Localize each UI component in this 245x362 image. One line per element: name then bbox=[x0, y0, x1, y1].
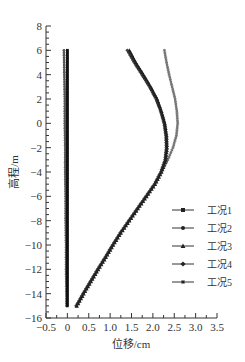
x-tick-label: 3.5 bbox=[210, 321, 224, 333]
legend-item-1: 工况1 bbox=[172, 205, 232, 216]
x-tick-label: 1.0 bbox=[103, 321, 117, 333]
y-tick-label: 4 bbox=[37, 69, 43, 81]
displacement-elevation-chart: 86420−2−4−6−8−10−12−14−16−0.500.51.01.52… bbox=[0, 0, 245, 362]
legend-item-4: 工况4 bbox=[172, 259, 232, 270]
y-tick-label: −12 bbox=[25, 263, 42, 275]
y-tick-label: −14 bbox=[25, 288, 43, 300]
y-tick-label: −2 bbox=[30, 142, 42, 154]
y-tick-label: 0 bbox=[37, 117, 43, 129]
legend-label: 工况4 bbox=[207, 259, 232, 270]
plot-area bbox=[63, 48, 180, 307]
x-tick-label: 2.5 bbox=[167, 321, 181, 333]
legend-item-2: 工况2 bbox=[172, 223, 232, 234]
series-3 bbox=[75, 48, 170, 307]
x-tick-label: 2.0 bbox=[146, 321, 160, 333]
x-tick-label: 0.5 bbox=[82, 321, 96, 333]
series-1 bbox=[66, 49, 69, 307]
x-axis-label: 位移/cm bbox=[112, 337, 151, 350]
series-4 bbox=[74, 49, 168, 308]
y-tick-label: 6 bbox=[37, 44, 43, 56]
series-5 bbox=[75, 49, 179, 307]
y-axis-label: 高程/m bbox=[7, 155, 20, 189]
y-tick-label: 2 bbox=[37, 93, 43, 105]
y-tick-label: −10 bbox=[25, 239, 43, 251]
x-tick-label: 3.0 bbox=[189, 321, 203, 333]
y-tick-label: −6 bbox=[30, 190, 42, 202]
x-tick-label: −0.5 bbox=[36, 321, 56, 333]
y-tick-label: −4 bbox=[30, 166, 42, 178]
x-tick-label: 0 bbox=[65, 321, 71, 333]
legend-label: 工况5 bbox=[207, 277, 232, 288]
y-tick-label: 8 bbox=[37, 20, 43, 32]
legend-label: 工况1 bbox=[207, 205, 232, 216]
legend-label: 工况3 bbox=[207, 241, 232, 252]
legend-item-3: 工况3 bbox=[172, 241, 232, 252]
x-tick-label: 1.5 bbox=[125, 321, 139, 333]
legend-item-5: 工况5 bbox=[172, 277, 232, 288]
axes: 86420−2−4−6−8−10−12−14−16−0.500.51.01.52… bbox=[25, 20, 225, 333]
legend: 工况1工况2工况3工况4工况5 bbox=[172, 205, 232, 288]
legend-label: 工况2 bbox=[207, 223, 232, 234]
y-tick-label: −8 bbox=[30, 215, 42, 227]
